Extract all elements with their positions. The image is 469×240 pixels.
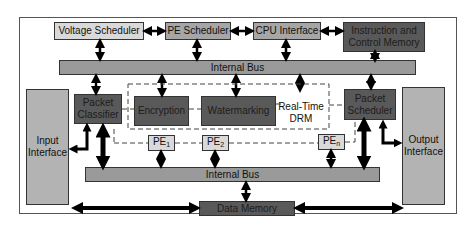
packet-classifier-block: Packet Classifier [74, 94, 122, 124]
pe-n-label: PEn [323, 135, 340, 150]
output-interface-label: Output Interface [403, 134, 444, 158]
output-interface-block: Output Interface [402, 87, 445, 205]
data-memory-label: Data Memory [217, 203, 277, 215]
data-memory-block: Data Memory [199, 201, 295, 216]
pe-1-block: PE1 [148, 135, 175, 151]
internal-bus-bottom: Internal Bus [85, 167, 380, 182]
encryption-label: Encryption [138, 105, 185, 117]
cpu-interface-label: CPU Interface [256, 25, 319, 37]
input-interface-label: Input Interface [27, 135, 68, 159]
packet-classifier-label: Packet Classifier [75, 97, 121, 121]
real-time-drm-label: Real-Time DRM [276, 100, 326, 126]
packet-scheduler-label: Packet Scheduler [345, 93, 395, 117]
pe-scheduler-label: PE Scheduler [167, 25, 228, 37]
pe-n-block: PEn [318, 134, 345, 150]
pe-scheduler-block: PE Scheduler [165, 22, 231, 40]
voltage-scheduler-block: Voltage Scheduler [54, 22, 144, 40]
watermarking-label: Watermarking [208, 105, 270, 117]
instruction-control-memory-block: Instruction and Control Memory [343, 22, 425, 52]
instruction-memory-label: Instruction and Control Memory [344, 25, 424, 49]
pe-1-label: PE1 [153, 136, 170, 151]
input-interface-block: Input Interface [26, 89, 69, 205]
voltage-scheduler-label: Voltage Scheduler [58, 25, 139, 37]
watermarking-block: Watermarking [201, 96, 276, 126]
pe-2-label: PE2 [207, 136, 224, 151]
encryption-block: Encryption [134, 96, 189, 126]
internal-bus-top: Internal Bus [59, 60, 416, 75]
drm-group-label: Real-Time DRM [276, 101, 326, 125]
internal-bus-top-label: Internal Bus [211, 62, 264, 74]
pe-2-block: PE2 [202, 135, 229, 151]
internal-bus-bottom-label: Internal Bus [206, 169, 259, 181]
packet-scheduler-block: Packet Scheduler [344, 89, 396, 120]
cpu-interface-block: CPU Interface [253, 22, 321, 40]
